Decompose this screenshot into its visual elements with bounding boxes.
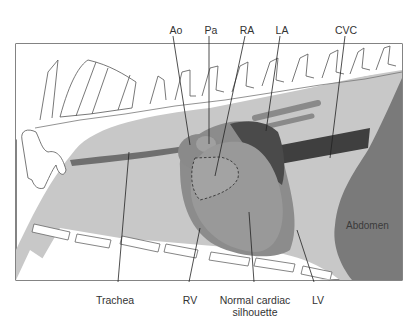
label-abdomen: Abdomen: [346, 220, 389, 232]
label-silhouette-line2: silhouette: [220, 306, 291, 318]
label-caudal-vena-cava: CVC: [335, 24, 357, 36]
thorax-diagram: [0, 0, 416, 321]
label-silhouette-line1: Normal cardiac: [220, 294, 291, 306]
label-right-atrium: RA: [240, 24, 255, 36]
label-left-atrium: LA: [276, 24, 289, 36]
label-left-ventricle: LV: [312, 294, 324, 306]
label-aorta: Ao: [170, 24, 183, 36]
label-pulmonary-artery: Pa: [205, 24, 218, 36]
label-right-ventricle: RV: [183, 294, 197, 306]
label-trachea: Trachea: [96, 294, 134, 306]
label-normal-cardiac-silhouette: Normal cardiac silhouette: [220, 294, 291, 318]
